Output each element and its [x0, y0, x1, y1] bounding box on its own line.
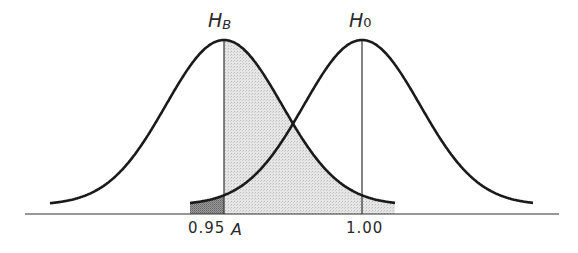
tick-label-095: 0.95 — [188, 219, 225, 237]
hb-label: HB — [208, 9, 231, 32]
light-shaded-region — [224, 40, 395, 214]
power-diagram: HB H0 0.95 A 1.00 — [0, 0, 578, 253]
tick-label-a: A — [230, 220, 242, 239]
h0-label: H0 — [349, 9, 372, 31]
tick-label-100: 1.00 — [346, 219, 383, 237]
hb-distribution-curve — [50, 40, 395, 203]
